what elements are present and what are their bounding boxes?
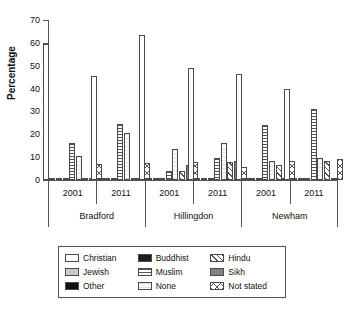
bar-christian	[91, 76, 97, 180]
legend-label: Not stated	[228, 281, 267, 291]
legend-item: Buddhist	[138, 251, 207, 265]
y-tick-label: 40	[30, 84, 40, 94]
x-axis-year-label: 2011	[96, 181, 144, 204]
legend-item: Jewish	[65, 265, 134, 279]
legend-label: Sikh	[228, 267, 245, 277]
bar-jewish	[243, 178, 249, 180]
bar-buddhist	[159, 178, 165, 180]
bar-jewish	[98, 178, 104, 180]
bar-buddhist	[111, 178, 117, 180]
y-tick-label: 20	[30, 129, 40, 139]
bar-other	[153, 178, 159, 180]
legend-label: None	[156, 281, 176, 291]
y-axis-label: Percentage	[6, 46, 17, 100]
legend-swatch-christian	[65, 254, 79, 262]
bar-muslim	[69, 143, 75, 180]
legend-label: Hindu	[228, 253, 250, 263]
bar-hindu	[179, 171, 185, 180]
bar-group	[145, 20, 193, 180]
x-axis-year-label: 2011	[290, 181, 338, 204]
bar-other	[104, 178, 110, 180]
legend-item: Not stated	[210, 279, 279, 293]
x-axis-labels: 200120112001201120012011 BradfordHilling…	[48, 181, 338, 227]
bar-muslim	[262, 125, 268, 180]
x-axis-year-label: 2001	[145, 181, 193, 204]
legend-swatch-hindu	[210, 254, 224, 262]
bar-none	[269, 161, 275, 180]
bar-none	[124, 133, 130, 180]
bar-jewish	[49, 178, 55, 180]
plot-area: 010203040506070	[48, 20, 338, 180]
legend-item: Other	[65, 279, 134, 293]
bar-group	[193, 20, 241, 180]
x-axis-district-row: BradfordHillingdonNewham	[48, 204, 338, 227]
x-axis-district-label: Newham	[241, 204, 338, 227]
bar-buddhist	[208, 178, 214, 180]
legend-label: Other	[83, 281, 104, 291]
legend-label: Christian	[83, 253, 117, 263]
bar-other	[56, 178, 62, 180]
bar-other	[249, 178, 255, 180]
bar-jewish	[194, 178, 200, 180]
bar-group	[48, 20, 96, 180]
bar-none	[76, 156, 82, 180]
bar-buddhist	[256, 178, 262, 180]
bar-none	[172, 149, 178, 180]
x-axis-year-row: 200120112001201120012011	[48, 181, 338, 204]
bar-none	[317, 158, 323, 180]
bar-other	[201, 178, 207, 180]
y-tick-label: 10	[30, 152, 40, 162]
bar-sikh	[331, 178, 337, 180]
x-axis-district-label: Hillingdon	[145, 204, 242, 227]
legend-swatch-other	[65, 282, 79, 290]
y-tick-label: 0	[35, 175, 40, 185]
bar-buddhist	[63, 178, 69, 180]
bar-group	[241, 20, 289, 180]
bar-other	[298, 178, 304, 180]
legend-item: None	[138, 279, 207, 293]
bar-notstated	[337, 159, 343, 180]
bar-jewish	[291, 178, 297, 180]
legend-swatch-notstated	[210, 282, 224, 290]
bar-buddhist	[304, 178, 310, 180]
bar-muslim	[311, 109, 317, 180]
legend-swatch-muslim	[138, 268, 152, 276]
legend-item: Hindu	[210, 251, 279, 265]
bar-christian	[284, 89, 290, 180]
bar-hindu	[227, 162, 233, 180]
bar-muslim	[166, 171, 172, 180]
legend-swatch-none	[138, 282, 152, 290]
y-tick-label: 50	[30, 61, 40, 71]
legend-swatch-jewish	[65, 268, 79, 276]
bar-christian	[43, 44, 49, 180]
legend-swatch-sikh	[210, 268, 224, 276]
legend-label: Buddhist	[156, 253, 189, 263]
legend-item: Sikh	[210, 265, 279, 279]
bar-muslim	[117, 124, 123, 180]
bar-group	[96, 20, 144, 180]
bar-christian	[139, 35, 145, 180]
bar-hindu	[82, 178, 88, 180]
y-tick-label: 70	[30, 15, 40, 25]
bar-hindu	[276, 165, 282, 180]
legend-label: Muslim	[156, 267, 183, 277]
bar-hindu	[131, 178, 137, 180]
bar-jewish	[146, 178, 152, 180]
legend-item: Christian	[65, 251, 134, 265]
legend-label: Jewish	[83, 267, 109, 277]
bar-christian	[236, 74, 242, 180]
y-tick-label: 60	[30, 38, 40, 48]
figure: Percentage 010203040506070 2001201120012…	[0, 0, 344, 322]
x-axis-year-label: 2001	[48, 181, 96, 204]
bar-christian	[188, 68, 194, 180]
legend-item: Muslim	[138, 265, 207, 279]
y-tick-label: 30	[30, 106, 40, 116]
chart-legend: ChristianBuddhistHinduJewishMuslimSikhOt…	[58, 246, 286, 298]
bar-hindu	[324, 161, 330, 180]
bar-group	[290, 20, 338, 180]
x-axis-district-label: Bradford	[48, 204, 145, 227]
x-axis-year-label: 2011	[193, 181, 241, 204]
x-axis-year-label: 2001	[241, 181, 289, 204]
legend-swatch-buddhist	[138, 254, 152, 262]
bar-muslim	[214, 158, 220, 180]
